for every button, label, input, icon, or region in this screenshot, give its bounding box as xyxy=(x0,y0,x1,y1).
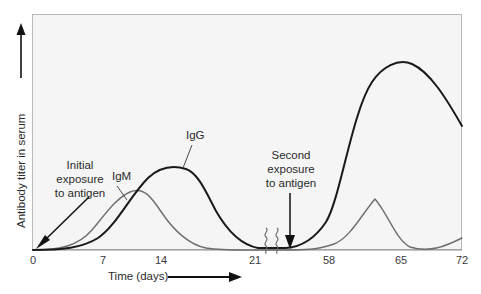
curve-label-igg: IgG xyxy=(186,129,205,141)
x-axis-arrow-icon xyxy=(168,272,242,282)
y-axis-title: Antibody titer in serum xyxy=(15,114,27,228)
annotation-initial-line3: to antigen xyxy=(38,186,122,200)
x-tick-14: 14 xyxy=(146,254,176,266)
chart-graphics xyxy=(0,0,481,294)
x-axis-title: Time (days) xyxy=(108,270,168,282)
x-tick-21: 21 xyxy=(240,254,270,266)
x-tick-58: 58 xyxy=(314,254,344,266)
annotation-initial-line2: exposure xyxy=(38,172,122,186)
x-tick-72: 72 xyxy=(447,254,477,266)
annotation-second-line2: exposure xyxy=(248,162,334,176)
annotation-initial-exposure: Initial exposure to antigen xyxy=(38,158,122,200)
annotation-second-line3: to antigen xyxy=(248,176,334,190)
x-tick-65: 65 xyxy=(386,254,416,266)
second-exposure-arrow-icon xyxy=(285,193,295,249)
igg-leader-line xyxy=(183,145,192,168)
x-tick-0: 0 xyxy=(18,254,48,266)
x-tick-7: 7 xyxy=(88,254,118,266)
antibody-response-chart: Antibody titer in serum Time (days) 0 7 … xyxy=(0,0,481,294)
annotation-second-line1: Second xyxy=(248,148,334,162)
initial-exposure-arrow-icon xyxy=(36,197,89,249)
y-axis-arrow-icon xyxy=(17,23,26,78)
annotation-second-exposure: Second exposure to antigen xyxy=(248,148,334,190)
annotation-initial-line1: Initial xyxy=(38,158,122,172)
